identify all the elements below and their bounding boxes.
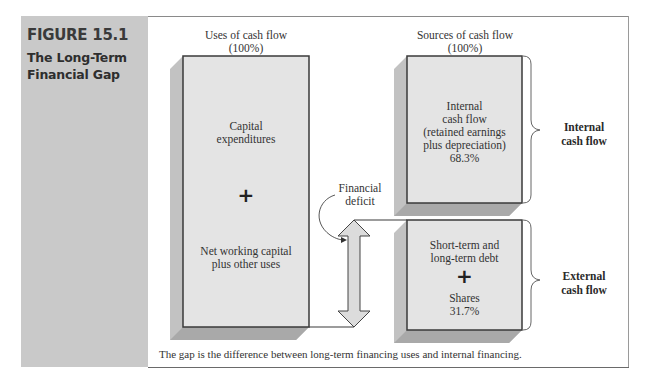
external-bracket-line1: External (549, 269, 619, 283)
deficit-line1: Financial (330, 182, 390, 195)
figure-caption: The gap is the difference between long-t… (159, 348, 522, 360)
shares-line: Shares (407, 292, 522, 305)
uses-heading-text: Uses of cash flow (196, 29, 296, 42)
net-working-capital-line1: Net working capital (183, 245, 309, 258)
external-brace-icon (523, 220, 540, 330)
shares-label: Shares 31.7% (407, 292, 522, 318)
internal-line3: (retained earnings (407, 126, 522, 139)
sources-percent: (100%) (405, 42, 525, 55)
diagram-graphics (0, 0, 648, 384)
net-working-capital-label: Net working capital plus other uses (183, 245, 309, 271)
internal-line2: cash flow (407, 113, 522, 126)
external-percent-value: 31.7% (407, 305, 522, 318)
internal-brace-icon (523, 56, 540, 203)
external-cash-flow-bracket-label: External cash flow (549, 269, 619, 297)
uses-plus-icon: + (183, 185, 309, 205)
external-bracket-line2: cash flow (549, 283, 619, 297)
internal-line1: Internal (407, 100, 522, 113)
financial-deficit-double-arrow-icon (338, 220, 370, 327)
sources-heading: Sources of cash flow (100%) (405, 29, 525, 55)
uses-percent: (100%) (196, 42, 296, 55)
capital-expenditures-label: Capital expenditures (183, 120, 309, 146)
sources-heading-text: Sources of cash flow (405, 29, 525, 42)
debt-label: Short-term and long-term debt (407, 239, 522, 265)
internal-bracket-line1: Internal (549, 120, 619, 134)
internal-line4: plus depreciation) (407, 139, 522, 152)
uses-heading: Uses of cash flow (100%) (196, 29, 296, 55)
internal-cash-flow-bracket-label: Internal cash flow (549, 120, 619, 148)
external-plus-icon: + (407, 266, 522, 286)
debt-line1: Short-term and (407, 239, 522, 252)
internal-percent-value: 68.3% (407, 152, 522, 165)
deficit-line2: deficit (330, 195, 390, 208)
internal-cash-flow-label: Internal cash flow (retained earnings pl… (407, 100, 522, 165)
net-working-capital-line2: plus other uses (183, 258, 309, 271)
internal-bracket-line2: cash flow (549, 134, 619, 148)
financial-deficit-label: Financial deficit (330, 182, 390, 208)
capital-expenditures-line1: Capital (183, 120, 309, 133)
capital-expenditures-line2: expenditures (183, 133, 309, 146)
